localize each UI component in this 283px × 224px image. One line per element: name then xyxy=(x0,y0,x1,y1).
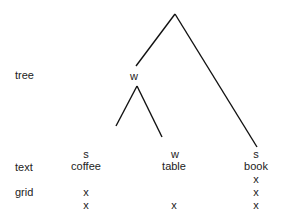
grid-mark: x xyxy=(83,199,89,211)
branch-root-to-book xyxy=(175,14,257,147)
word-book: book xyxy=(244,160,268,172)
node-table-stress: w xyxy=(171,148,179,160)
branch-w-to-coffee xyxy=(116,86,137,126)
row-label-grid: grid xyxy=(15,186,33,198)
grid-mark: x xyxy=(253,199,259,211)
grid-mark: x xyxy=(171,199,177,211)
node-inner-w: w xyxy=(130,70,138,82)
branch-root-to-w xyxy=(136,14,175,66)
branch-w-to-table xyxy=(137,86,162,137)
grid-mark: x xyxy=(253,186,259,198)
row-label-text: text xyxy=(15,161,33,173)
node-coffee-stress: s xyxy=(83,148,89,160)
row-label-tree: tree xyxy=(15,69,34,81)
grid-mark: x xyxy=(83,186,89,198)
metrical-tree-diagram: tree text grid w s w s coffee table book… xyxy=(0,0,283,224)
grid-mark: x xyxy=(253,173,259,185)
node-book-stress: s xyxy=(253,148,259,160)
word-coffee: coffee xyxy=(71,160,101,172)
tree-branches xyxy=(0,0,283,224)
word-table: table xyxy=(162,160,186,172)
